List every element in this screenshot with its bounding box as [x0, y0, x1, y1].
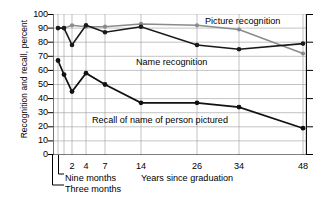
nine-months-caption: Nine months [65, 173, 116, 183]
x-tick-label-34: 34 [226, 162, 252, 171]
y-tick-label-70: 70 [22, 52, 48, 61]
y-tick-label-40: 40 [22, 94, 48, 103]
three-months-caption: Three months [65, 184, 121, 194]
y-tick-label-90: 90 [22, 24, 48, 33]
x-tick-label-26: 26 [184, 162, 210, 171]
y-tick-label-10: 10 [22, 136, 48, 145]
plot-area [53, 14, 307, 155]
x-tick-label-48: 48 [290, 162, 316, 171]
y-tick-label-30: 30 [22, 108, 48, 117]
x-axis-title: Years since graduation [141, 173, 233, 183]
series-picture-recognition [56, 22, 305, 56]
right-axis-ticks [307, 14, 315, 155]
recall-label: Recall of name of person pictured [92, 115, 228, 125]
y-tick-label-100: 100 [22, 10, 48, 19]
x-tick-label-14: 14 [128, 162, 154, 171]
x-tick-label-7: 7 [92, 162, 118, 171]
left-axis-ticks [47, 14, 54, 156]
y-tick-label-60: 60 [22, 66, 48, 75]
plot-svg [53, 14, 307, 155]
picture-recognition-label: Picture recognition [205, 16, 280, 26]
series-name-recognition [56, 23, 306, 52]
y-tick-label-50: 50 [22, 80, 48, 89]
name-recognition-label: Name recognition [136, 57, 207, 67]
y-tick-label-80: 80 [22, 38, 48, 47]
y-tick-label-20: 20 [22, 122, 48, 131]
y-tick-label-0: 0 [22, 150, 48, 159]
chart-figure: Recognition and recall, percent 100 90 8… [0, 0, 334, 205]
